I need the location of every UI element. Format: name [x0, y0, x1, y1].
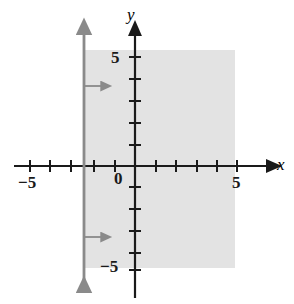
y-axis-label: y [127, 6, 135, 23]
x-axis-label: x [277, 156, 285, 173]
y-axis-tick-label-negative-5: −5 [100, 258, 118, 275]
y-axis-tick-label-positive-5: 5 [111, 49, 120, 66]
plot-canvas [0, 0, 294, 304]
x-axis-tick-label-negative-5: −5 [18, 174, 36, 191]
origin-label: 0 [114, 170, 123, 187]
x-axis-tick-label-positive-5: 5 [232, 174, 241, 191]
solution-region-shading [84, 50, 235, 268]
coordinate-plane-figure: y x −5 5 5 −5 0 [0, 0, 294, 304]
